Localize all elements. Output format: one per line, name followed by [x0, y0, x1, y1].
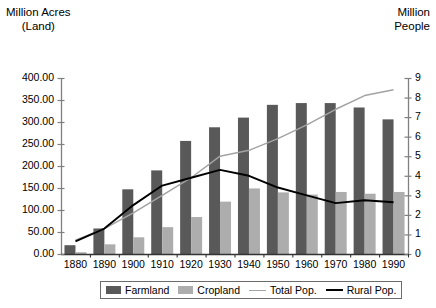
legend-swatch-line	[326, 289, 343, 291]
legend-label: Rural Pop.	[347, 284, 397, 296]
legend-item-total-pop: Total Pop.	[249, 284, 317, 296]
chart-screenshot: Million Acres (Land) Million People 0.00…	[0, 0, 436, 308]
legend-label: Farmland	[125, 284, 169, 296]
legend-label: Total Pop.	[270, 284, 317, 296]
legend-item-rural-pop: Rural Pop.	[326, 284, 397, 296]
legend-swatch-box	[178, 286, 193, 294]
legend-label: Cropland	[197, 284, 240, 296]
legend-item-cropland: Cropland	[178, 284, 240, 296]
legend-item-farmland: Farmland	[106, 284, 169, 296]
axes-svg	[0, 0, 436, 308]
chart-legend: FarmlandCroplandTotal Pop.Rural Pop.	[100, 281, 402, 299]
legend-swatch-line	[249, 290, 266, 291]
legend-swatch-box	[106, 286, 121, 294]
